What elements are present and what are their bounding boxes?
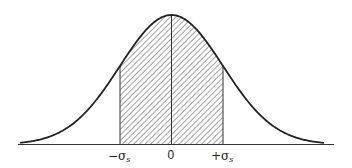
plus-sigma-label: +σs [211, 149, 233, 164]
zero-label: 0 [168, 148, 175, 162]
bell-curve-diagram: −σs 0 +σs [0, 0, 352, 168]
minus-sigma-label: −σs [108, 149, 130, 164]
